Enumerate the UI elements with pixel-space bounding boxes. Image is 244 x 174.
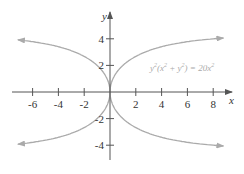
x-tick-label: 6 [185, 98, 191, 110]
x-tick-label: 4 [159, 98, 165, 110]
y-tick-label: 2 [99, 59, 105, 71]
y-tick-label: 4 [99, 33, 105, 45]
equation-label: y2(x2 + y2) = 20x2 [149, 62, 214, 73]
x-tick-label: -2 [80, 98, 89, 110]
cochleoid-plot: -6-4-22468 42-2-4 x y y2(x2 + y2) = 20x2 [0, 0, 244, 174]
curve-branch [18, 40, 110, 92]
x-tick-label: -6 [28, 98, 38, 110]
x-axis-label: x [228, 94, 234, 106]
x-axis-ticks: -6-4-22468 [28, 88, 216, 110]
x-tick-label: 2 [133, 98, 139, 110]
y-axis-label: y [101, 10, 107, 22]
x-tick-label: 8 [210, 98, 216, 110]
y-tick-label: -2 [95, 113, 104, 125]
curve-branch [110, 92, 223, 146]
y-tick-label: -4 [95, 139, 105, 151]
x-tick-label: -4 [54, 98, 64, 110]
